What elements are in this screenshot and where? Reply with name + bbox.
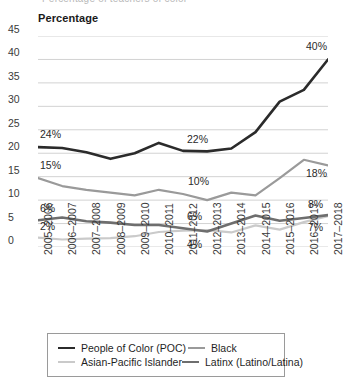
- legend-label: Latinx (Latino/Latina): [205, 356, 303, 368]
- legend-row: People of Color (POC)Black: [58, 342, 276, 354]
- legend-item[interactable]: People of Color (POC): [58, 342, 188, 354]
- legend-label: Asian-Pacific Islander: [81, 356, 182, 368]
- clipped-header-label: Percentage of teachers of color: [42, 0, 187, 4]
- data-value-label: 8%: [308, 198, 323, 210]
- chart-legend: People of Color (POC)BlackAsian-Pacific …: [47, 333, 285, 377]
- legend-label: Black: [211, 342, 237, 354]
- y-tick-label: 10: [8, 187, 34, 199]
- y-axis-title: Percentage: [38, 12, 98, 24]
- x-tick-label: 2014–2015: [260, 202, 272, 255]
- x-tick-label: 2015–2016: [284, 202, 296, 255]
- y-tick-label: 20: [8, 140, 34, 152]
- series-line-black: [38, 160, 328, 200]
- x-tick-label: 2012–2013: [211, 202, 223, 255]
- x-tick-label: 2007–2008: [90, 202, 102, 255]
- legend-row: Asian-Pacific IslanderLatinx (Latino/Lat…: [58, 356, 276, 368]
- y-tick-label: 45: [8, 23, 34, 35]
- data-value-label: 24%: [40, 128, 61, 140]
- legend-item[interactable]: Latinx (Latino/Latina): [182, 356, 303, 368]
- x-tick-label: 2017–2018: [332, 202, 344, 255]
- data-value-label: 2%: [40, 220, 55, 232]
- data-value-label: 10%: [188, 175, 209, 187]
- data-value-label: 15%: [40, 159, 61, 171]
- legend-line-swatch-icon: [58, 361, 75, 363]
- legend-item[interactable]: Black: [188, 342, 237, 354]
- legend-label: People of Color (POC): [81, 342, 186, 354]
- data-value-label: 7%: [308, 221, 323, 233]
- legend-item[interactable]: Asian-Pacific Islander: [58, 356, 182, 368]
- x-tick-label: 2008–2009: [115, 202, 127, 255]
- x-tick-label: 2006–2007: [66, 202, 78, 255]
- data-value-label: 6%: [40, 202, 55, 214]
- legend-line-swatch-icon: [182, 361, 199, 363]
- data-value-label: 22%: [187, 133, 208, 145]
- series-line-people-of-color-poc: [38, 59, 328, 158]
- y-tick-label: 30: [8, 93, 34, 105]
- data-value-label: 4%: [187, 238, 202, 250]
- x-tick-label: 2009–2010: [139, 202, 151, 255]
- legend-rows: People of Color (POC)BlackAsian-Pacific …: [58, 342, 276, 368]
- x-tick-label: 2010–2011: [163, 203, 175, 255]
- y-tick-label: 40: [8, 46, 34, 58]
- data-value-label: 18%: [306, 167, 327, 179]
- y-tick-label: 0: [8, 234, 34, 246]
- y-tick-label: 5: [8, 211, 34, 223]
- legend-line-swatch-icon: [188, 347, 205, 349]
- y-tick-label: 25: [8, 117, 34, 129]
- y-tick-label: 35: [8, 70, 34, 82]
- y-tick-label: 15: [8, 164, 34, 176]
- legend-line-swatch-icon: [58, 347, 75, 349]
- data-value-label: 6%: [187, 210, 202, 222]
- data-value-label: 40%: [306, 40, 327, 52]
- x-tick-label: 2013–2014: [235, 202, 247, 255]
- clipped-header-text: Percentage of teachers of color: [0, 0, 336, 9]
